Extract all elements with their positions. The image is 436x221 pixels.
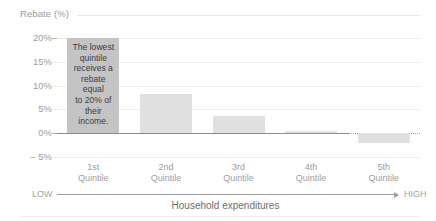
xaxis-category-labels: 1stQuintile2ndQuintile3rdQuintile4thQuin… (57, 162, 420, 186)
yaxis-tick-label: 10% (4, 81, 52, 91)
bar (140, 94, 192, 134)
xaxis-category-line: 5th (347, 162, 420, 173)
xaxis-category-label: 3rdQuintile (202, 162, 275, 184)
yaxis-tick-label: 5% (4, 104, 52, 114)
xaxis-category-line: 4th (275, 162, 348, 173)
yaxis-title-row: Rebate (%) (0, 8, 436, 24)
xaxis-category-label: 4thQuintile (275, 162, 348, 184)
yaxis-tick-label: 20% (4, 33, 52, 43)
annotation-line: their income. (70, 106, 116, 127)
yaxis-tick-label: 0% (4, 128, 52, 138)
xaxis-title: Household expenditures (172, 200, 280, 211)
xaxis-category-line: Quintile (275, 173, 348, 184)
xaxis-category-label: 1stQuintile (57, 162, 130, 184)
annotation-line: The lowest (70, 42, 116, 53)
high-label: HIGH (404, 189, 427, 199)
xaxis-category-line: Quintile (202, 173, 275, 184)
xaxis-category-line: Quintile (347, 173, 420, 184)
xaxis-title-wrap: Household expenditures (0, 200, 436, 211)
footer-rule (20, 216, 420, 217)
xaxis-category-label: 5thQuintile (347, 162, 420, 184)
bar (358, 133, 410, 143)
xaxis-category-line: Quintile (57, 173, 130, 184)
yaxis-title-rule (77, 15, 420, 16)
annotation-line: receives a (70, 63, 116, 74)
xaxis-category-line: 2nd (130, 162, 203, 173)
bar (213, 116, 265, 134)
plot-area: The lowestquintilereceives arebate equal… (57, 38, 420, 157)
bar-annotation: The lowestquintilereceives arebate equal… (67, 38, 119, 127)
zero-baseline (57, 133, 349, 134)
direction-arrow-line (57, 194, 398, 195)
rebate-quintile-chart: Rebate (%) 20%15%10%5%0%– 5% The lowestq… (0, 0, 436, 221)
annotation-line: rebate equal (70, 74, 116, 95)
xaxis-category-line: 3rd (202, 162, 275, 173)
annotation-line: quintile (70, 53, 116, 64)
low-label: LOW (32, 189, 53, 199)
yaxis-tick-label: – 5% (4, 152, 52, 162)
xaxis-category-line: 1st (57, 162, 130, 173)
yaxis-tick-label: 15% (4, 57, 52, 67)
xaxis-category-line: Quintile (130, 173, 203, 184)
annotation-line: to 20% of (70, 95, 116, 106)
xaxis-category-label: 2ndQuintile (130, 162, 203, 184)
direction-arrow-head-icon (394, 192, 399, 198)
gridline (57, 157, 420, 158)
bar (285, 131, 337, 133)
